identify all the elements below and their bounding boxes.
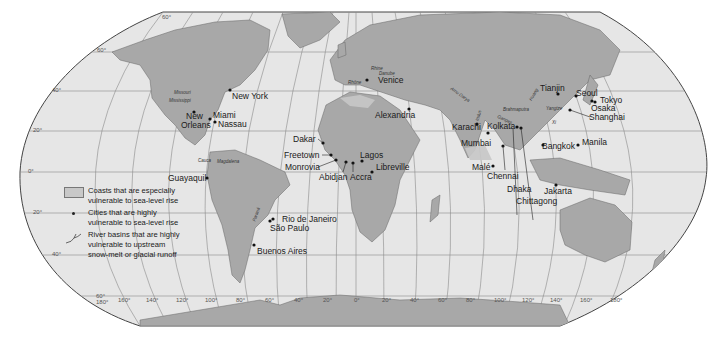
city-new-york: New York xyxy=(232,92,268,101)
river-icon xyxy=(64,232,84,244)
city-tianjin: Tianjin xyxy=(540,84,565,93)
city-monrovia: Monrovia xyxy=(285,163,320,172)
city-seoul: Seoul xyxy=(576,89,598,98)
lon-tick: 160° xyxy=(580,297,592,303)
city-dot-icon xyxy=(72,212,75,215)
lat-tick-40n: 40° xyxy=(52,87,61,93)
lon-tick: 120° xyxy=(522,297,534,303)
river-danube: Danube xyxy=(379,71,395,76)
lat-tick-60n-left: 60° xyxy=(97,47,106,53)
city-shanghai: Shanghai xyxy=(589,113,625,122)
city-chennai: Chennai xyxy=(487,172,519,181)
legend-item-rivers: River basins that are highly vulnerable … xyxy=(64,230,214,260)
city-chittagong: Chittagong xyxy=(516,197,557,206)
coast-swatch-icon xyxy=(64,187,84,198)
river-brahmaputra: Brahmaputra xyxy=(503,107,529,112)
legend-item-coasts: Coasts that are especially vulnerable to… xyxy=(64,186,214,206)
lon-tick: 60° xyxy=(438,297,447,303)
river-missouri: Missouri xyxy=(174,90,191,95)
lon-tick: 140° xyxy=(146,297,158,303)
legend-item-cities: Cities that are highly vulnerable to sea… xyxy=(64,208,214,228)
city-jakarta: Jakarta xyxy=(544,187,572,196)
lon-tick: 0° xyxy=(354,297,360,303)
city-accra: Accra xyxy=(350,173,372,182)
lon-tick: 20° xyxy=(382,297,391,303)
lon-tick: 140° xyxy=(550,297,562,303)
lat-tick-20s: 20° xyxy=(33,209,42,215)
city-libreville: Libreville xyxy=(376,163,410,172)
river-xi: Xi xyxy=(552,120,556,125)
lat-tick-40s: 40° xyxy=(52,251,61,257)
city-karachi: Karachi xyxy=(452,123,481,132)
map-legend: Coasts that are especially vulnerable to… xyxy=(64,186,214,262)
city-dakar: Dakar xyxy=(293,135,316,144)
lon-tick: 120° xyxy=(176,297,188,303)
lon-tick: 20° xyxy=(323,297,332,303)
city-venice: Venice xyxy=(378,76,404,85)
river-yangtze: Yangtze xyxy=(546,106,562,111)
lon-tick: 100° xyxy=(205,297,217,303)
lat-tick-eq: 0° xyxy=(28,168,34,174)
lat-tick-60n: 60° xyxy=(162,14,171,20)
lon-tick: 80° xyxy=(466,297,475,303)
lon-tick: 180° xyxy=(610,297,622,303)
lon-tick: 80° xyxy=(236,297,245,303)
city-freetown: Freetown xyxy=(284,151,319,160)
lon-tick: 100° xyxy=(494,297,506,303)
city-bangkok: Bangkok xyxy=(542,142,575,151)
city-alexandria: Alexandria xyxy=(375,111,415,120)
city-manila: Manila xyxy=(582,138,607,147)
river-mississippi: Mississippi xyxy=(169,98,191,103)
river-rhone: Rhône xyxy=(348,80,361,85)
lon-tick: 40° xyxy=(410,297,419,303)
river-magdalena: Magdalena xyxy=(217,159,239,164)
lon-tick: 40° xyxy=(294,297,303,303)
lon-tick: 60° xyxy=(265,297,274,303)
city-abidjan: Abidjan xyxy=(319,173,347,182)
lon-tick: 180° xyxy=(96,299,108,305)
city-lagos: Lagos xyxy=(360,151,383,160)
lat-tick-20n: 20° xyxy=(33,127,42,133)
city-dhaka: Dhaka xyxy=(507,185,532,194)
city-mumbai: Mumbai xyxy=(461,139,491,148)
city-guayaquil: Guayaquil xyxy=(168,174,206,183)
city-new-orleans-2: Orleans xyxy=(181,121,211,130)
city-buenos-aires: Buenos Aires xyxy=(257,247,307,256)
city-nassau: Nassau xyxy=(218,120,247,129)
river-cauca: Cauca xyxy=(198,158,211,163)
city-sao-paulo: São Paulo xyxy=(270,224,309,233)
lon-tick: 160° xyxy=(118,297,130,303)
